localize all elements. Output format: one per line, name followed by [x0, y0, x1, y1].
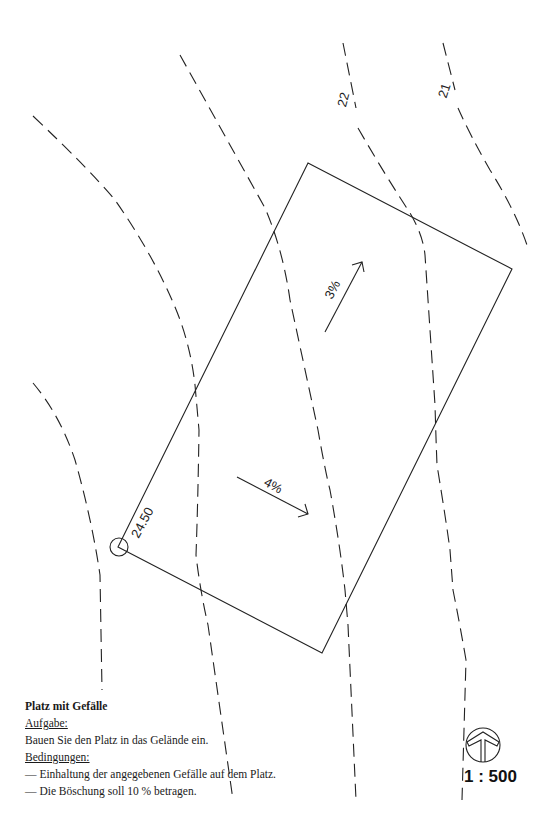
task-description: Platz mit Gefälle Aufgabe: Bauen Sie den…: [25, 698, 276, 800]
condition-item: — Einhaltung der angegebenen Gefälle auf…: [25, 766, 276, 783]
contour-line-22: [343, 43, 466, 800]
task-heading: Aufgabe:: [25, 715, 276, 732]
plaza-outline: [118, 163, 512, 653]
contour-line-middle: [180, 55, 356, 800]
north-arrow-icon: [464, 726, 502, 764]
conditions-heading: Bedingungen:: [25, 749, 276, 766]
task-title: Platz mit Gefälle: [25, 698, 276, 715]
contour-line-21: [443, 43, 527, 245]
condition-item: — Die Böschung soll 10 % betragen.: [25, 783, 276, 800]
contour-line-lower-left: [33, 383, 102, 690]
task-text: Bauen Sie den Platz in das Gelände ein.: [25, 732, 276, 749]
scale-label: 1 : 500: [464, 767, 517, 787]
